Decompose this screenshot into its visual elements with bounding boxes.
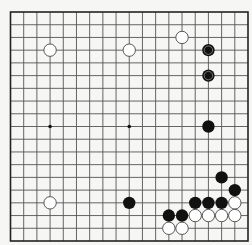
star-point-icon xyxy=(48,125,52,129)
go-board[interactable] xyxy=(0,0,252,245)
white-stone-icon xyxy=(44,44,56,56)
white-stone[interactable] xyxy=(215,209,227,221)
white-stone[interactable] xyxy=(44,44,56,56)
white-stone-icon xyxy=(123,44,135,56)
star-point-icon xyxy=(127,125,131,129)
black-stone-icon xyxy=(202,120,214,132)
black-stone-icon xyxy=(215,171,227,183)
black-stone-icon xyxy=(163,209,175,221)
black-stone-icon xyxy=(202,197,214,209)
black-stone[interactable] xyxy=(229,184,241,196)
white-stone-icon xyxy=(202,209,214,221)
black-stone-icon xyxy=(229,184,241,196)
white-stone-icon xyxy=(229,209,241,221)
white-stone-icon xyxy=(163,222,175,234)
white-stone[interactable] xyxy=(202,209,214,221)
white-stone[interactable] xyxy=(176,31,188,43)
black-stone-icon xyxy=(123,197,135,209)
white-stone-icon xyxy=(176,31,188,43)
black-stone-icon xyxy=(189,197,201,209)
white-stone-icon xyxy=(189,209,201,221)
white-stone-icon xyxy=(215,209,227,221)
black-stone[interactable] xyxy=(189,197,201,209)
white-stone-icon xyxy=(44,197,56,209)
white-stone[interactable] xyxy=(123,44,135,56)
black-stone[interactable] xyxy=(202,197,214,209)
black-stone[interactable] xyxy=(123,197,135,209)
white-stone[interactable] xyxy=(229,197,241,209)
black-stone[interactable] xyxy=(215,197,227,209)
white-stone[interactable] xyxy=(44,197,56,209)
black-stone[interactable] xyxy=(215,171,227,183)
white-stone[interactable] xyxy=(189,209,201,221)
white-stone[interactable] xyxy=(176,222,188,234)
black-stone[interactable] xyxy=(202,44,214,56)
black-stone-icon xyxy=(215,197,227,209)
white-stone[interactable] xyxy=(163,222,175,234)
black-stone[interactable] xyxy=(202,69,214,81)
black-stone[interactable] xyxy=(176,209,188,221)
white-stone-icon xyxy=(229,197,241,209)
white-stone[interactable] xyxy=(229,209,241,221)
black-stone-icon xyxy=(176,209,188,221)
white-stone-icon xyxy=(176,222,188,234)
black-stone[interactable] xyxy=(202,120,214,132)
go-board-grid[interactable] xyxy=(0,0,252,245)
black-stone[interactable] xyxy=(163,209,175,221)
